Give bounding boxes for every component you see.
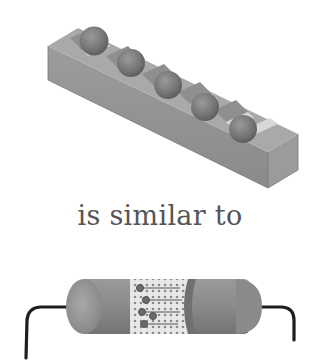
caption-text: is similar to — [0, 200, 320, 231]
capsule-cell-illustration — [0, 240, 320, 360]
grooved-block-illustration — [0, 0, 320, 200]
left-wire — [26, 307, 72, 358]
